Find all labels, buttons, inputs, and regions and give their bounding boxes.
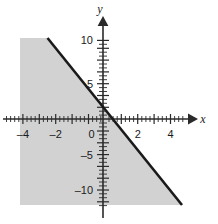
coordinate-plane-figure: x y –4 –2 0 2 4 10 5 –5 –10 <box>0 0 218 224</box>
x-tick-label-neg4: –4 <box>17 128 29 140</box>
x-tick-label-zero: 0 <box>88 128 94 140</box>
y-tick-label-neg5: –5 <box>81 149 93 161</box>
x-tick-label-pos4: 4 <box>167 128 173 140</box>
y-tick-label-neg10: –10 <box>75 184 93 196</box>
graph-canvas: x y –4 –2 0 2 4 10 5 –5 –10 <box>0 0 218 224</box>
y-tick-label-pos10: 10 <box>81 34 93 46</box>
y-tick-label-pos5: 5 <box>87 78 93 90</box>
x-tick-label-pos2: 2 <box>135 128 141 140</box>
x-tick-label-neg2: –2 <box>50 128 62 140</box>
x-axis-label: x <box>199 112 206 126</box>
y-axis-label: y <box>96 2 103 16</box>
